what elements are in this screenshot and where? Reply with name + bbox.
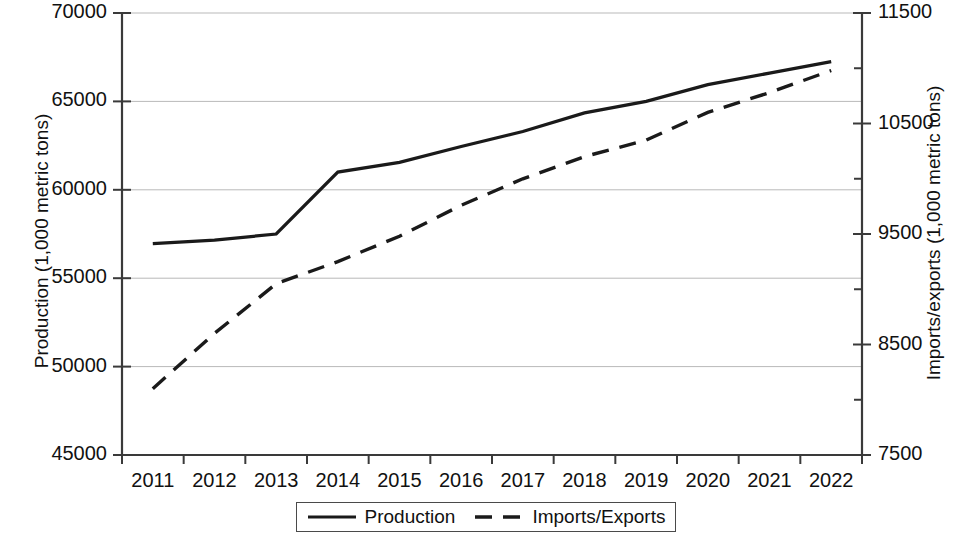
left-axis-tick-label: 60000 [17, 177, 107, 200]
legend-item-imports-exports: Imports/Exports [474, 506, 665, 528]
x-axis-tick-label: 2021 [735, 469, 805, 492]
x-axis-tick-label: 2020 [673, 469, 743, 492]
x-axis-tick-label: 2018 [550, 469, 620, 492]
data-series [153, 62, 831, 389]
left-axis-tick-label: 50000 [17, 354, 107, 377]
left-axis-tick-label: 70000 [17, 0, 107, 23]
legend-item-production: Production [307, 506, 456, 528]
x-axis-tick-label: 2016 [426, 469, 496, 492]
legend-label-imports-exports: Imports/Exports [532, 506, 665, 528]
x-axis-tick-label: 2022 [796, 469, 866, 492]
series-line-production [153, 62, 831, 244]
x-axis-tick-label: 2011 [118, 469, 188, 492]
chart-container: Production (1,000 metric tons) Imports/e… [0, 0, 969, 537]
right-axis-tick-label: 10500 [878, 111, 968, 134]
left-axis-tick-label: 45000 [17, 442, 107, 465]
solid-line-icon [307, 511, 357, 523]
x-axis-tick-label: 2013 [241, 469, 311, 492]
plot-area [0, 0, 969, 537]
left-axis-tick-label: 55000 [17, 265, 107, 288]
right-axis-tick-label: 11500 [878, 0, 968, 23]
x-axis-tick-label: 2012 [180, 469, 250, 492]
x-axis-tick-label: 2015 [365, 469, 435, 492]
x-axis-tick-label: 2019 [611, 469, 681, 492]
left-axis-tick-label: 65000 [17, 88, 107, 111]
x-axis-tick-label: 2014 [303, 469, 373, 492]
x-axis-tick-label: 2017 [488, 469, 558, 492]
axis-lines [122, 13, 862, 455]
right-axis-tick-label: 9500 [878, 221, 968, 244]
dashed-line-icon [474, 511, 524, 523]
right-axis-tick-label: 8500 [878, 332, 968, 355]
legend-label-production: Production [365, 506, 456, 528]
gridlines [122, 13, 862, 367]
series-line-imports-exports [153, 71, 831, 389]
right-axis-tick-label: 7500 [878, 442, 968, 465]
chart-legend: Production Imports/Exports [296, 502, 676, 532]
